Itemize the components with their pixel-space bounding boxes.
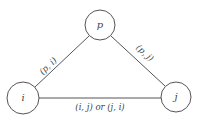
edge-p-i (35, 36, 89, 87)
edge-label-i-j: (i, j) or (j, i) (75, 102, 124, 112)
node-j: j (161, 82, 191, 112)
node-p: p (85, 10, 115, 40)
edge-label-p-i: (p, i) (37, 55, 58, 76)
edge-p-j (111, 36, 165, 86)
node-label-p: p (97, 19, 104, 30)
node-i: i (7, 82, 39, 114)
graph-diagram: (p, i) (p, j) (i, j) or (j, i) p i j (0, 0, 203, 118)
node-label-i: i (21, 92, 24, 103)
